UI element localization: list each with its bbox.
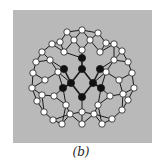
white-atom [39,92,45,98]
white-atom [107,93,113,99]
dark-atom [60,65,67,72]
white-atom [42,77,48,83]
white-atom [131,85,137,91]
white-atom [119,107,125,113]
dark-atom [78,54,85,61]
white-atom [120,91,126,97]
white-atom [30,70,36,76]
white-atom [79,109,85,115]
white-atom [33,59,39,65]
white-atom [95,102,101,108]
white-atom [50,117,56,123]
white-atom [125,59,131,65]
white-atom [91,111,97,117]
white-atom [87,37,93,43]
white-atom [119,48,125,54]
dark-atom [97,84,104,91]
white-atom [41,109,47,115]
white-atom [116,77,122,83]
white-atom [51,93,57,99]
white-atom [79,47,85,53]
white-atom [64,29,70,35]
white-atom [61,49,67,55]
white-atom [79,121,85,127]
white-atom [57,39,63,45]
figure-panel [13,10,152,143]
white-atom [111,41,117,47]
dark-atom [67,79,74,86]
white-atom [95,30,101,36]
molecule-diagram [0,0,162,162]
white-atom [34,98,40,104]
white-atom [111,57,117,63]
white-atom [129,70,135,76]
figure-caption: (b) [0,145,162,159]
dark-atom [96,65,103,72]
white-atom [39,49,45,55]
dark-atom [89,79,96,86]
white-atom [29,85,35,91]
white-atom [71,37,77,43]
white-atom [67,111,73,117]
white-atom [109,116,115,122]
white-atom [97,49,103,55]
white-atom [63,102,69,108]
white-atom [59,121,65,127]
dark-atom [78,93,85,100]
white-atom [99,121,105,127]
white-atom [79,27,85,33]
white-atom [103,40,109,46]
dark-atom [59,84,66,91]
white-atom [47,57,53,63]
dark-atom [78,65,85,72]
white-atom [125,97,131,103]
white-atom [49,41,55,47]
